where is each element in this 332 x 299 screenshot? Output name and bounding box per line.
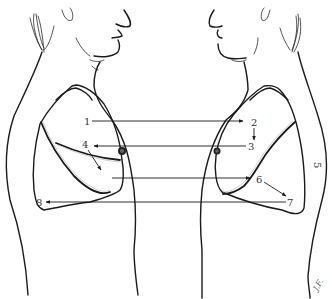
left-shoulder	[56, 88, 92, 100]
chest-lung-diagram: 1 2 3 4 5 6 7 8 J.F.	[0, 0, 332, 299]
left-back-outline	[7, 52, 42, 295]
leader-lines	[46, 121, 286, 202]
left-jaw	[76, 38, 104, 70]
right-face-profile	[209, 10, 246, 59]
label-3: 3	[248, 141, 254, 152]
left-figure	[7, 8, 138, 295]
left-face-profile	[94, 10, 131, 57]
left-ear	[62, 8, 73, 21]
right-back-outline	[298, 52, 326, 298]
label-8: 8	[36, 197, 42, 208]
right-shoulder	[250, 88, 288, 100]
left-front-outline	[94, 62, 138, 295]
right-hair	[280, 14, 301, 52]
label-5: 5	[312, 162, 323, 168]
right-lung-outline	[215, 86, 305, 214]
label-4: 4	[82, 139, 88, 150]
label-2: 2	[251, 117, 257, 128]
right-ear	[261, 8, 270, 21]
leader-6-7	[264, 182, 286, 196]
label-6: 6	[256, 174, 262, 185]
label-1: 1	[84, 116, 90, 127]
right-figure	[201, 8, 327, 298]
label-7: 7	[287, 197, 293, 208]
left-hair	[30, 14, 54, 52]
labels: 1 2 3 4 5 6 7 8	[36, 116, 323, 208]
right-front-outline	[201, 62, 249, 298]
artist-signature: J.F.	[310, 278, 325, 295]
leader-4-arrow	[88, 150, 101, 170]
